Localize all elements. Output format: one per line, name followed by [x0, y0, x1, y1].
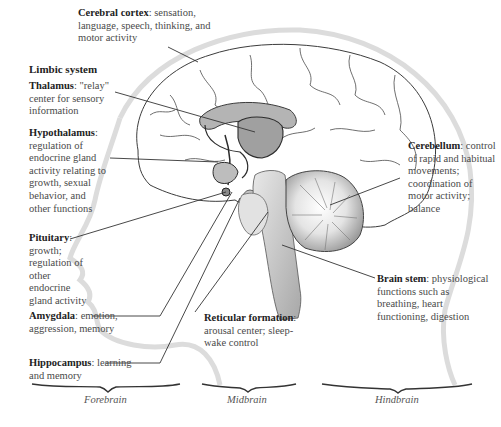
- section-midbrain: Midbrain: [227, 394, 267, 405]
- label-title: Hypothalamus: [29, 127, 95, 138]
- label-amygdala: Amygdala: emotion, aggression, memory: [29, 310, 129, 335]
- label-reticular-formation: Reticular formation: arousal center; sle…: [204, 312, 314, 350]
- label-title: Brain stem: [377, 273, 426, 284]
- label-hippocampus: Hippocampus: learning and memory: [29, 357, 139, 382]
- label-desc: : growth; regulation of other endocrine …: [29, 232, 86, 306]
- label-desc: : regulation of endocrine gland activity…: [29, 127, 106, 214]
- label-cerebellum: Cerebellum: control of rapid and habitua…: [408, 140, 496, 216]
- brace-midbrain: [202, 384, 296, 392]
- brace-forebrain: [32, 384, 180, 392]
- label-title: Cerebellum: [408, 140, 460, 151]
- label-title: Cerebral cortex: [78, 7, 149, 18]
- label-title: Reticular formation: [204, 312, 293, 323]
- label-brain-stem: Brain stem: physiological functions such…: [377, 273, 492, 323]
- section-hindbrain: Hindbrain: [375, 394, 419, 405]
- brain-diagram: Cerebral cortex: sensation, language, sp…: [0, 0, 501, 427]
- label-hypothalamus: Hypothalamus: regulation of endocrine gl…: [29, 127, 109, 215]
- label-thalamus: Thalamus: "relay" center for sensory inf…: [29, 80, 117, 118]
- brace-hindbrain: [322, 384, 472, 393]
- pons: [238, 193, 268, 235]
- section-forebrain: Forebrain: [84, 394, 127, 405]
- label-title: Amygdala: [29, 310, 75, 321]
- leader-reticular: [195, 212, 268, 312]
- label-desc: : control of rapid and habitual movement…: [408, 140, 496, 214]
- label-pituitary: Pituitary: growth; regulation of other e…: [29, 232, 89, 308]
- leader-amygdala-2: [160, 192, 232, 316]
- heading-limbic-system: Limbic system: [29, 63, 97, 75]
- label-title: Pituitary: [29, 232, 69, 243]
- label-cerebral-cortex: Cerebral cortex: sensation, language, sp…: [78, 7, 228, 45]
- label-title: Hippocampus: [29, 357, 91, 368]
- label-title: Thalamus: [29, 80, 74, 91]
